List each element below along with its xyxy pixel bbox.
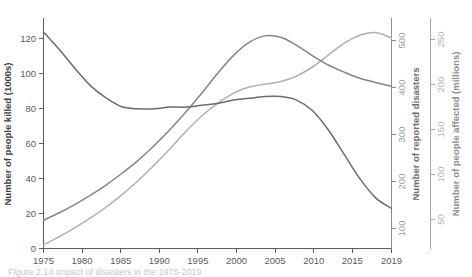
y-tick-label-killed-120: 120 bbox=[20, 33, 36, 44]
y-tick-label-killed-80: 80 bbox=[25, 103, 36, 114]
y-tick-label-affected-250: 250 bbox=[435, 32, 446, 48]
x-axis-ticks bbox=[44, 249, 392, 254]
y-axis-affected: 50 100 150 200 250 Number of people affe… bbox=[431, 18, 462, 249]
x-tick-label-1990: 1990 bbox=[149, 255, 170, 266]
chart-canvas: 0 20 40 60 80 100 120 Number of people k… bbox=[0, 0, 472, 277]
y-tick-label-affected-200: 200 bbox=[435, 77, 446, 93]
series-group bbox=[44, 32, 392, 245]
series-line-disasters bbox=[44, 36, 392, 221]
y-tick-label-affected-50: 50 bbox=[435, 214, 446, 225]
y-axis-disasters-title: Number of reported disasters bbox=[410, 67, 421, 200]
y-axis-affected-title: Number of people affected (millions) bbox=[450, 52, 461, 217]
chart-figure: 0 20 40 60 80 100 120 Number of people k… bbox=[0, 0, 472, 277]
y-axis-disasters: 100 200 300 400 500 Number of reported d… bbox=[392, 18, 422, 249]
y-tick-label-killed-40: 40 bbox=[25, 173, 36, 184]
y-tick-label-disasters-500: 500 bbox=[396, 33, 407, 49]
figure-caption: Figure 2.14 Impact of disasters in the 1… bbox=[8, 267, 202, 277]
x-tick-label-1995: 1995 bbox=[187, 255, 208, 266]
y-axis-disasters-tick-labels: 100 200 300 400 500 bbox=[396, 33, 407, 237]
x-tick-label-2005: 2005 bbox=[265, 255, 286, 266]
y-tick-label-disasters-100: 100 bbox=[396, 221, 407, 237]
x-tick-label-2019: 2019 bbox=[381, 255, 402, 266]
x-tick-label-1975: 1975 bbox=[33, 255, 54, 266]
series-line-affected bbox=[44, 32, 392, 244]
x-tick-label-2000: 2000 bbox=[226, 255, 247, 266]
x-axis: 1975 1980 1985 1990 1995 2000 2005 2010 … bbox=[33, 249, 402, 267]
y-tick-label-disasters-400: 400 bbox=[396, 80, 407, 96]
y-tick-label-affected-150: 150 bbox=[435, 122, 446, 138]
y-tick-label-affected-100: 100 bbox=[435, 167, 446, 183]
y-tick-label-killed-20: 20 bbox=[25, 208, 36, 219]
y-axis-killed-ticks bbox=[39, 39, 44, 249]
x-axis-tick-labels: 1975 1980 1985 1990 1995 2000 2005 2010 … bbox=[33, 255, 402, 266]
x-tick-label-2010: 2010 bbox=[303, 255, 324, 266]
y-axis-killed-tick-labels: 0 20 40 60 80 100 120 bbox=[20, 33, 36, 254]
y-axis-affected-tick-labels: 50 100 150 200 250 bbox=[435, 32, 446, 225]
x-tick-label-1985: 1985 bbox=[110, 255, 131, 266]
y-axis-killed-title: Number of people killed (1000s) bbox=[2, 62, 13, 205]
y-tick-label-killed-100: 100 bbox=[20, 68, 36, 79]
y-tick-label-killed-60: 60 bbox=[25, 138, 36, 149]
x-tick-label-2015: 2015 bbox=[342, 255, 363, 266]
y-tick-label-killed-0: 0 bbox=[31, 243, 36, 254]
y-tick-label-disasters-300: 300 bbox=[396, 127, 407, 143]
series-line-killed bbox=[44, 32, 392, 208]
y-axis-killed: 0 20 40 60 80 100 120 Number of people k… bbox=[2, 18, 44, 254]
y-tick-label-disasters-200: 200 bbox=[396, 174, 407, 190]
x-tick-label-1980: 1980 bbox=[72, 255, 93, 266]
